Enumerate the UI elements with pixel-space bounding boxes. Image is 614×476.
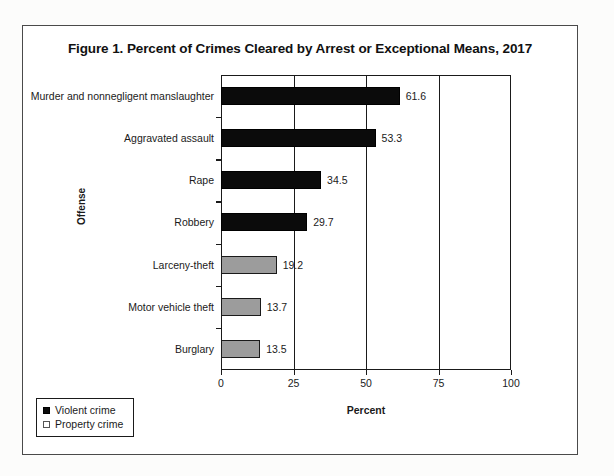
legend-item: Violent crime [43,403,123,417]
legend-item: Property crime [43,417,123,431]
bar-value-label: 29.7 [313,216,333,228]
x-tick-label: 75 [433,377,445,389]
x-tick-mark [366,370,367,375]
y-axis-title: Offense [76,188,87,225]
category-label: Murder and nonnegligent manslaughter [31,90,214,102]
x-tick-label: 50 [360,377,372,389]
bar-property [221,298,261,316]
bar-value-label: 13.5 [266,343,286,355]
legend-swatch-icon [43,407,50,414]
x-tick-mark [439,370,440,375]
legend-swatch-icon [43,421,50,428]
legend-label: Violent crime [55,403,116,417]
category-label: Robbery [174,216,214,228]
category-label: Motor vehicle theft [128,301,214,313]
bar-violent [221,171,321,189]
x-axis-title: Percent [221,404,511,416]
bar-row: Aggravated assault53.3 [221,117,511,159]
x-tick-mark [294,370,295,375]
x-tick-label: 100 [502,377,520,389]
bar-property [221,256,277,274]
x-tick-label: 25 [288,377,300,389]
category-label: Burglary [175,343,214,355]
bar-row: Larceny-theft19.2 [221,244,511,286]
figure-title: Figure 1. Percent of Crimes Cleared by A… [23,41,577,56]
bar-value-label: 34.5 [327,174,347,186]
bar-value-label: 13.7 [267,301,287,313]
x-tick-label: 0 [218,377,224,389]
bar-value-label: 19.2 [283,259,303,271]
bar-violent [221,129,376,147]
legend-label: Property crime [55,417,123,431]
category-label: Rape [189,174,214,186]
plot-area: Murder and nonnegligent manslaughter61.6… [221,75,511,370]
x-tick-mark [511,370,512,375]
bar-row: Rape34.5 [221,159,511,201]
bar-violent [221,87,400,105]
category-label: Aggravated assault [124,132,214,144]
x-tick-mark [221,370,222,375]
bar-violent [221,213,307,231]
bar-row: Motor vehicle theft13.7 [221,286,511,328]
legend: Violent crimeProperty crime [36,398,134,437]
bar-value-label: 53.3 [382,132,402,144]
bar-value-label: 61.6 [406,90,426,102]
bar-property [221,340,260,358]
bar-row: Burglary13.5 [221,328,511,370]
bar-row: Robbery29.7 [221,201,511,243]
bar-row: Murder and nonnegligent manslaughter61.6 [221,75,511,117]
figure-frame: Figure 1. Percent of Crimes Cleared by A… [22,25,578,455]
category-label: Larceny-theft [153,259,214,271]
